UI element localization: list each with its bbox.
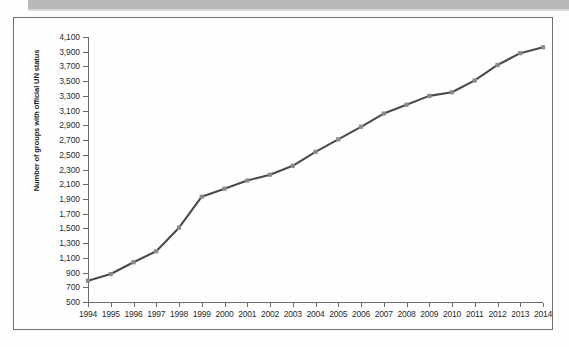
data-point-marker [495,63,499,67]
series-markers [86,45,545,283]
data-point-marker [245,178,249,182]
line-series-svg [14,18,554,331]
data-point-marker [313,150,317,154]
data-point-marker [541,45,545,49]
data-point-marker [109,272,113,276]
page-top-banner [28,0,569,9]
scanned-page: Number of groups with official UN status… [0,0,569,347]
data-point-marker [200,195,204,199]
data-point-marker [154,249,158,253]
chart-frame: Number of groups with official UN status… [13,17,553,330]
data-point-marker [359,125,363,129]
data-point-marker [404,103,408,107]
data-point-marker [131,260,135,264]
data-point-marker [336,137,340,141]
page-top-banner-shadow [28,9,569,11]
plot-area: Number of groups with official UN status… [14,18,554,331]
data-point-marker [450,90,454,94]
data-point-marker [473,78,477,82]
data-point-marker [177,226,181,230]
data-point-marker [291,164,295,168]
data-point-marker [518,51,522,55]
data-point-marker [427,94,431,98]
data-point-marker [222,187,226,191]
data-point-marker [382,111,386,115]
data-point-marker [268,173,272,177]
data-point-marker [86,279,90,283]
